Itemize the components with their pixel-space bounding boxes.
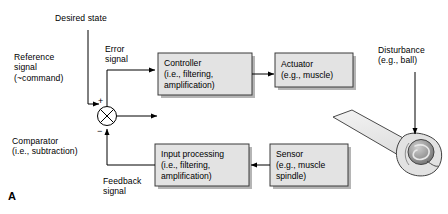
panel-letter-label: A — [8, 190, 16, 202]
sensor-block-detail-1: (e.g., muscle — [276, 160, 325, 171]
input-processing-block-detail-2: amplification) — [161, 171, 212, 182]
desired-state-label: Desired state — [55, 13, 107, 23]
control-loop-diagram: Desired state Reference signal (~command… — [0, 0, 448, 214]
comparator-junction — [98, 107, 117, 126]
controller-block-detail-2: amplification) — [164, 80, 215, 91]
sensor-block-detail-2: spindle) — [276, 171, 306, 182]
controller-block-title: Controller — [164, 58, 201, 69]
diagram-vector-layer — [0, 0, 448, 214]
feedback-signal-label: Feedback signal — [103, 176, 141, 197]
sensor-block-title: Sensor — [276, 149, 303, 160]
comparator-label: Comparator (i.e., subtraction) — [12, 136, 78, 157]
comparator-plus-sign: + — [98, 97, 103, 106]
comparator-minus-sign: − — [97, 127, 102, 136]
disturbance-label: Disturbance (e.g., ball) — [378, 45, 425, 66]
actuator-block-title: Actuator — [281, 59, 313, 70]
input-processing-block-title: Input processing — [161, 149, 224, 160]
reference-signal-label: Reference signal (~command) — [14, 52, 63, 83]
error-signal-label: Error signal — [105, 44, 128, 65]
junction-to-controller-line — [107, 70, 155, 107]
controller-block-detail-1: (i.e., filtering, — [164, 69, 213, 80]
actuator-block-detail-1: (e.g., muscle) — [281, 70, 333, 81]
input-processing-block-detail-1: (i.e., filtering, — [161, 160, 210, 171]
